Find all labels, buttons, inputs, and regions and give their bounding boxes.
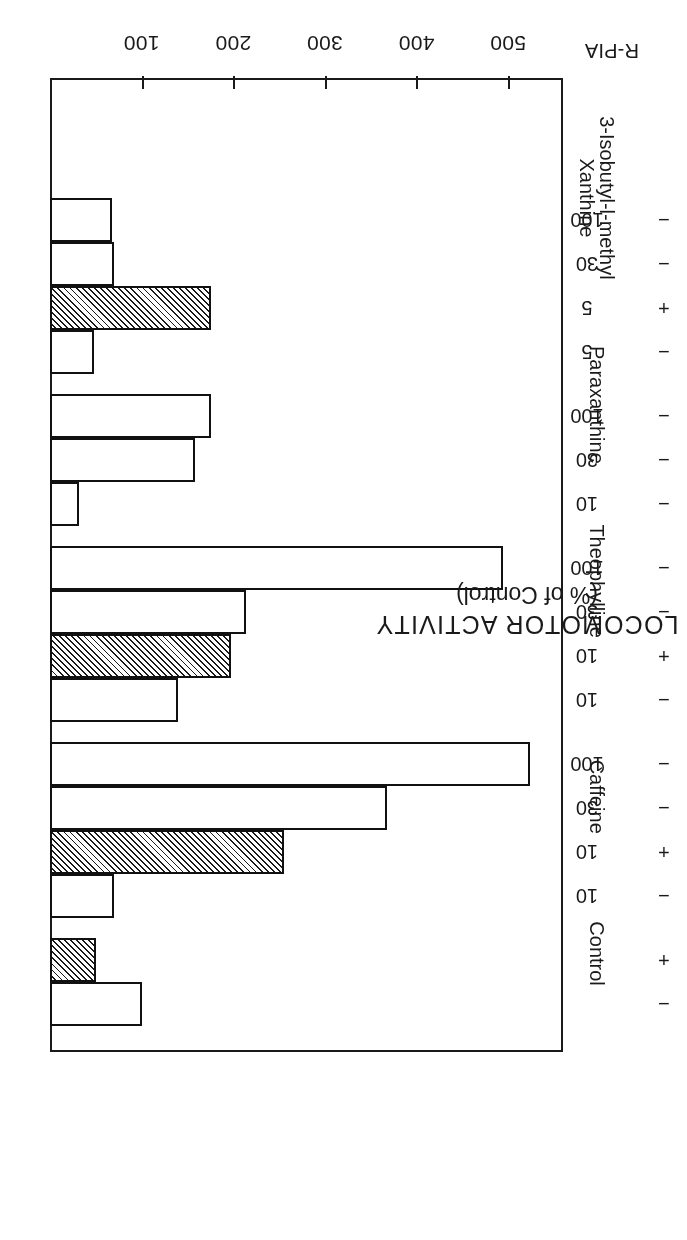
rpia-mark: + <box>649 938 679 982</box>
axis-tick <box>508 76 510 89</box>
dose-label: 5 <box>565 286 609 330</box>
category-label-layer: −+Control−10+10−30−100Caffeine−10+10−30−… <box>563 78 687 1052</box>
axis-tick <box>233 76 235 89</box>
axis-tick-label: 400 <box>386 31 446 55</box>
group-name: 3-Isobutyl-l-methylXanthine <box>577 116 618 279</box>
dose-label: 5 <box>565 330 609 374</box>
axis-title: LOCOMOTOR ACTIVITY (% of Control) <box>247 581 687 640</box>
bar <box>50 742 530 786</box>
group-name: Caffeine <box>587 760 607 834</box>
axis-tick <box>325 76 327 89</box>
axis-tick <box>142 76 144 89</box>
group-name: Control <box>587 921 607 985</box>
rpia-mark: − <box>649 482 679 526</box>
bar <box>50 634 231 678</box>
bar <box>50 590 246 634</box>
group-name-line: Xanthine <box>577 116 597 279</box>
rpia-mark: − <box>649 786 679 830</box>
axis-title-line1: LOCOMOTOR ACTIVITY <box>247 610 687 641</box>
bar <box>50 438 195 482</box>
bar <box>50 286 211 330</box>
rpia-row-caption: R-PIA <box>585 39 639 62</box>
bar <box>50 198 112 242</box>
rpia-mark: − <box>649 742 679 786</box>
rpia-mark: − <box>649 198 679 242</box>
group-name-line: Control <box>587 921 607 985</box>
bar <box>50 938 96 982</box>
rpia-mark: + <box>649 634 679 678</box>
rpia-mark: − <box>649 678 679 722</box>
rpia-mark: − <box>649 438 679 482</box>
bar <box>50 786 387 830</box>
bar <box>50 874 114 918</box>
group-name-line: 3-Isobutyl-l-methyl <box>597 116 617 279</box>
rpia-mark: − <box>649 242 679 286</box>
figure-locomotor-activity: 100200300400500 −+Control−10+10−30−100Ca… <box>0 0 687 1240</box>
bars-layer: 100200300400500 <box>50 78 563 1052</box>
axis-tick-label: 100 <box>112 31 172 55</box>
axis-tick <box>416 76 418 89</box>
rpia-mark: − <box>649 330 679 374</box>
dose-label: 10 <box>565 874 609 918</box>
figure-rotated-content: 100200300400500 −+Control−10+10−30−100Ca… <box>0 0 687 1240</box>
axis-title-line2: (% of Control) <box>247 581 687 609</box>
bar <box>50 830 284 874</box>
group-name-line: Caffeine <box>587 760 607 834</box>
rpia-mark: − <box>649 394 679 438</box>
bar <box>50 330 94 374</box>
rpia-mark: − <box>649 874 679 918</box>
bar <box>50 242 114 286</box>
dose-label: 10 <box>565 830 609 874</box>
bar <box>50 678 178 722</box>
bar <box>50 982 142 1026</box>
rpia-mark: + <box>649 286 679 330</box>
dose-label: 10 <box>565 678 609 722</box>
axis-tick-label: 300 <box>295 31 355 55</box>
dose-label: 10 <box>565 482 609 526</box>
rpia-mark: − <box>649 982 679 1026</box>
axis-tick-label: 200 <box>203 31 263 55</box>
axis-tick-label: 500 <box>478 31 538 55</box>
rpia-mark: + <box>649 830 679 874</box>
bar <box>50 482 79 526</box>
bar <box>50 394 211 438</box>
dose-label: 10 <box>565 634 609 678</box>
